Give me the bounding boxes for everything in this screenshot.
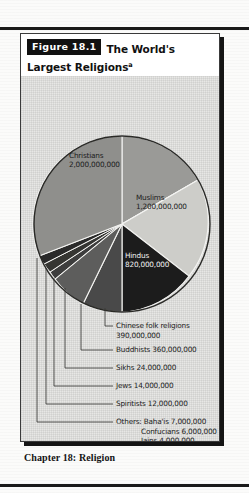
callout-others: Others: Baha'is 7,000,000 Confucians 6,0…: [116, 417, 220, 442]
figure-number-badge: Figure 18.1: [27, 39, 101, 55]
callout-chinese-folk-religions: Chinese folk religions 390,000,000: [116, 321, 190, 340]
figure-box: Figure 18.1The World's Largest Religions…: [20, 33, 220, 442]
chart-plot-area: Christians 2,000,000,000 Muslims 1,200,0…: [21, 76, 219, 442]
others-item-1: Confucians 6,000,000: [116, 427, 217, 437]
figure-header: Figure 18.1The World's Largest Religions…: [21, 34, 219, 76]
callout-line-1: Chinese folk religions: [116, 321, 190, 330]
callout-line-1: Spiritists 12,000,000: [116, 399, 188, 408]
others-label: Others:: [116, 417, 142, 426]
callout-jews: Jews 14,000,000: [116, 381, 174, 391]
others-item-0: Baha'is 7,000,000: [144, 417, 206, 426]
chapter-footer: Chapter 18: Religion: [24, 452, 115, 463]
figure-title-footnote-marker: a: [128, 61, 132, 69]
page-bottom-rule: [0, 484, 249, 487]
callout-sikhs: Sikhs 24,000,000: [116, 363, 176, 373]
callout-buddhists: Buddhists 360,000,000: [116, 345, 197, 355]
callout-line-1: Sikhs 24,000,000: [116, 363, 176, 372]
callout-spiritists: Spiritists 12,000,000: [116, 399, 188, 409]
page-top-rule: [0, 27, 249, 30]
others-item-2: Jains 4,000,000: [116, 436, 195, 442]
scanned-page: Figure 18.1The World's Largest Religions…: [0, 0, 249, 493]
callout-line-2: 390,000,000: [116, 331, 160, 340]
callout-line-1: Jews 14,000,000: [116, 381, 174, 390]
callout-line-1: Buddhists 360,000,000: [116, 345, 197, 354]
